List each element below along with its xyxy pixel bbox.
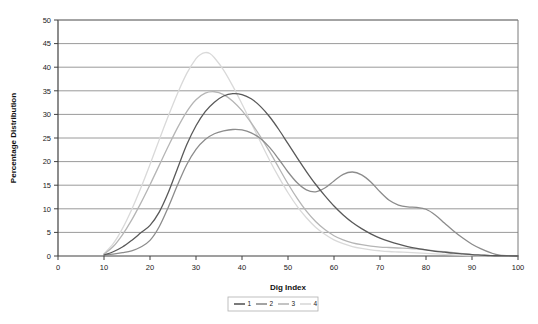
y-tick-label-40: 40 — [43, 63, 51, 72]
legend-label-3: 3 — [292, 300, 296, 307]
y-tick-label-35: 35 — [43, 87, 51, 96]
y-tick-label-10: 10 — [43, 205, 51, 214]
y-axis: 05101520253035404550 — [43, 16, 58, 261]
y-tick-label-25: 25 — [43, 134, 51, 143]
y-axis-title: Percentage Distribution — [9, 93, 18, 183]
chart-legend: 1234 — [228, 297, 318, 311]
legend-label-2: 2 — [270, 300, 274, 307]
x-tick-label-100: 100 — [512, 263, 525, 272]
percentage-distribution-line-chart: 05101520253035404550 0102030405060708090… — [0, 0, 538, 324]
x-axis: 0102030405060708090100 — [56, 256, 524, 272]
x-tick-label-20: 20 — [146, 263, 154, 272]
y-tick-label-5: 5 — [47, 228, 51, 237]
legend-label-1: 1 — [248, 300, 252, 307]
x-tick-label-0: 0 — [56, 263, 60, 272]
x-tick-label-70: 70 — [376, 263, 384, 272]
y-tick-label-45: 45 — [43, 39, 51, 48]
y-tick-label-0: 0 — [47, 252, 51, 261]
y-tick-label-30: 30 — [43, 110, 51, 119]
y-tick-label-15: 15 — [43, 181, 51, 190]
x-tick-label-30: 30 — [192, 263, 200, 272]
x-tick-label-90: 90 — [468, 263, 476, 272]
chart-container: 05101520253035404550 0102030405060708090… — [0, 0, 538, 324]
x-axis-title: Dig Index — [270, 283, 307, 292]
x-tick-label-80: 80 — [422, 263, 430, 272]
y-tick-label-50: 50 — [43, 16, 51, 25]
x-tick-label-10: 10 — [100, 263, 108, 272]
legend-label-4: 4 — [314, 300, 318, 307]
y-tick-label-20: 20 — [43, 157, 51, 166]
x-tick-label-50: 50 — [284, 263, 292, 272]
x-tick-label-40: 40 — [238, 263, 246, 272]
x-tick-label-60: 60 — [330, 263, 338, 272]
